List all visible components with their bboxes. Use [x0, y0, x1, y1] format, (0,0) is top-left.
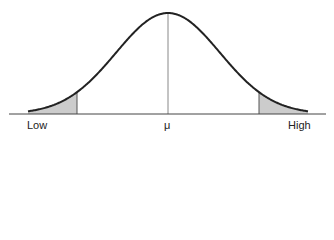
high-label: High — [288, 119, 311, 131]
low-label: Low — [27, 119, 47, 131]
mean-label: μ — [164, 119, 170, 131]
